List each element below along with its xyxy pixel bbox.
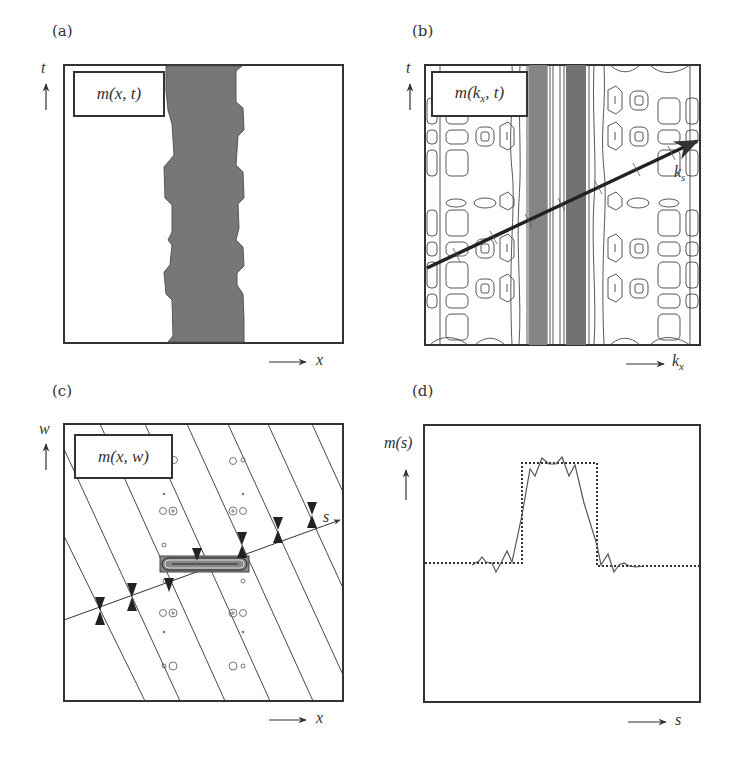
inset-title-a: m(x, t) bbox=[73, 71, 165, 117]
inset-text-a: m(x, t) bbox=[97, 84, 141, 104]
inset-title-c: m(x, w) bbox=[74, 434, 173, 479]
axis-label-b-kx: kx bbox=[672, 352, 684, 372]
axis-label-a-x: x bbox=[316, 351, 323, 369]
inset-text-b: m(kx, t) bbox=[455, 83, 504, 104]
axis-label-b-t: t bbox=[406, 59, 410, 77]
axis-label-d-ms: m(s) bbox=[384, 434, 412, 452]
central-contour bbox=[160, 556, 249, 572]
axis-label-d-s: s bbox=[675, 711, 681, 729]
inset-title-b: m(kx, t) bbox=[431, 71, 528, 117]
line-label-ks: ks bbox=[674, 163, 685, 183]
axis-label-c-x: x bbox=[316, 709, 323, 727]
axis-label-a-t: t bbox=[41, 59, 45, 77]
panel-d bbox=[406, 425, 700, 722]
gray-band bbox=[164, 66, 244, 342]
line-label-s: s bbox=[323, 508, 329, 526]
inset-text-c: m(x, w) bbox=[98, 447, 149, 467]
axis-label-c-w: w bbox=[39, 420, 50, 438]
